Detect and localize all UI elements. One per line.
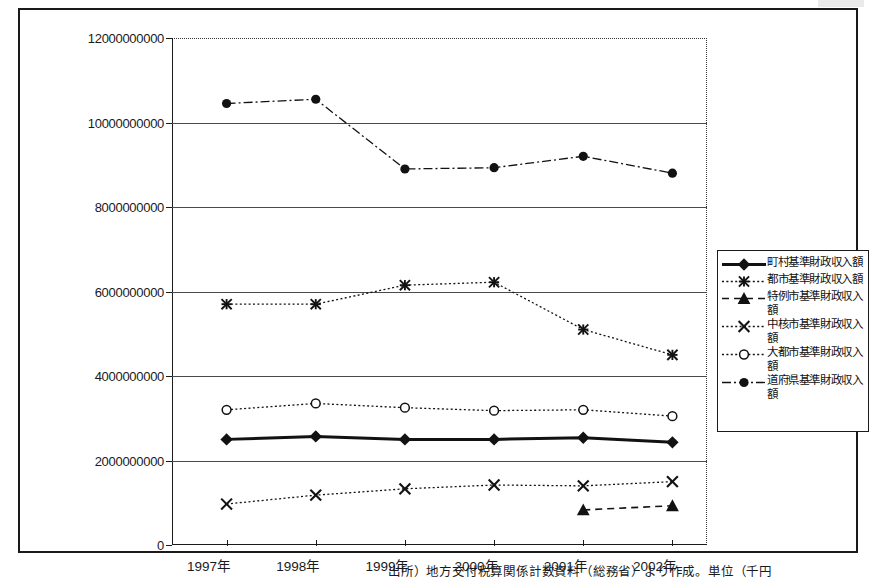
legend-label: 都市基準財政収入額	[767, 273, 862, 287]
series-4	[222, 399, 677, 420]
plot-area	[172, 38, 707, 545]
series-2	[577, 499, 679, 515]
data-point-marker	[222, 99, 231, 108]
data-series-layer	[172, 38, 707, 545]
y-axis-tick-label: 0	[157, 538, 164, 553]
legend-key-icon	[721, 274, 767, 289]
data-point-marker	[311, 299, 321, 309]
y-tick-mark	[166, 545, 172, 546]
legend-item-2[interactable]: 特例市基準財政収入額	[721, 290, 865, 317]
data-point-marker	[222, 405, 231, 414]
data-point-marker	[220, 433, 232, 445]
data-point-marker	[310, 430, 322, 442]
data-point-marker	[400, 483, 411, 494]
data-point-marker	[579, 405, 588, 414]
x-axis-tick-label: 1998年	[276, 555, 319, 575]
chart-figure: 0200000000040000000006000000000800000000…	[0, 0, 874, 582]
data-point-marker	[667, 350, 677, 360]
data-point-marker	[490, 406, 499, 415]
x-axis-tick-label: 1997年	[187, 555, 230, 575]
series-line	[227, 403, 673, 416]
source-caption: 出所）地方交付税算関係計数資料（総務省）より作成。単位（千円	[388, 561, 874, 582]
legend-item-0[interactable]: 町村基準財政収入額	[721, 256, 865, 272]
series-line	[583, 506, 672, 510]
data-point-marker	[401, 403, 410, 412]
figure-frame: 0200000000040000000006000000000800000000…	[18, 8, 858, 553]
data-point-marker	[221, 299, 231, 309]
legend-label: 道府県基準財政収入額	[767, 374, 865, 401]
y-axis-tick-label: 4000000000	[95, 369, 164, 384]
data-point-marker	[666, 436, 678, 448]
legend-item-4[interactable]: 大都市基準財政収入額	[721, 346, 865, 373]
legend-item-5[interactable]: 道府県基準財政収入額	[721, 374, 865, 401]
series-line	[227, 282, 673, 355]
series-1	[221, 277, 677, 360]
legend-key-icon	[721, 257, 767, 272]
legend-label: 町村基準財政収入額	[767, 256, 862, 270]
legend-label: 大都市基準財政収入額	[767, 346, 865, 373]
y-axis-tick-label: 8000000000	[95, 200, 164, 215]
series-5	[222, 95, 677, 178]
data-point-marker	[579, 152, 588, 161]
data-point-marker	[667, 476, 678, 487]
data-point-marker	[400, 164, 409, 173]
series-3	[221, 476, 678, 509]
data-point-marker	[489, 277, 499, 287]
data-point-marker	[221, 499, 232, 510]
legend-label: 特例市基準財政収入額	[767, 290, 865, 317]
legend-key-icon	[721, 319, 767, 334]
y-axis-tick-label: 10000000000	[88, 115, 164, 130]
y-axis-tick-label: 12000000000	[88, 31, 164, 46]
legend-label: 中核市基準財政収入額	[767, 318, 865, 345]
data-point-marker	[668, 412, 677, 421]
legend-item-3[interactable]: 中核市基準財政収入額	[721, 318, 865, 345]
data-point-marker	[578, 324, 588, 334]
data-point-marker	[577, 431, 589, 443]
legend-key-icon	[721, 375, 767, 390]
chart-legend: 町村基準財政収入額都市基準財政収入額特例市基準財政収入額中核市基準財政収入額大都…	[717, 250, 869, 432]
series-0	[220, 430, 678, 448]
data-point-marker	[489, 163, 498, 172]
data-point-marker	[311, 399, 320, 408]
data-point-marker	[668, 169, 677, 178]
series-line	[227, 99, 673, 173]
y-axis-tick-labels: 0200000000040000000006000000000800000000…	[26, 10, 164, 551]
legend-key-icon	[721, 291, 767, 306]
legend-key-icon	[721, 347, 767, 362]
series-line	[227, 436, 673, 442]
y-axis-tick-label: 6000000000	[95, 284, 164, 299]
data-point-marker	[400, 280, 410, 290]
data-point-marker	[311, 95, 320, 104]
data-point-marker	[488, 433, 500, 445]
y-axis-tick-label: 2000000000	[95, 453, 164, 468]
data-point-marker	[399, 433, 411, 445]
series-line	[227, 482, 673, 504]
scan-artifact	[818, 0, 864, 7]
legend-item-1[interactable]: 都市基準財政収入額	[721, 273, 865, 289]
